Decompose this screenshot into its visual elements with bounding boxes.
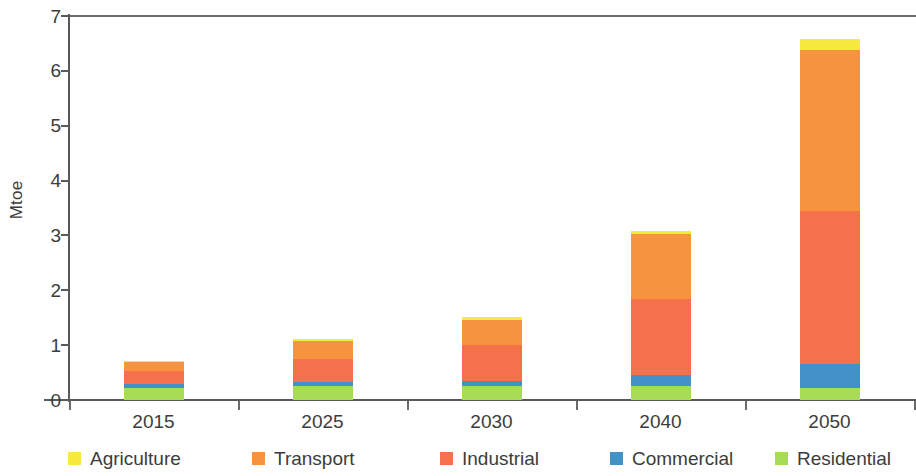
- x-axis-tick-mark: [745, 401, 747, 410]
- x-axis-tick-mark: [238, 401, 240, 410]
- legend-swatch-icon: [610, 452, 623, 465]
- legend-label: Residential: [797, 449, 891, 468]
- legend-item-commercial[interactable]: Commercial: [610, 444, 733, 472]
- bar-segment-industrial[interactable]: [293, 359, 353, 382]
- legend-label: Transport: [274, 449, 355, 468]
- x-axis-tick-mark: [69, 401, 71, 410]
- legend-item-residential[interactable]: Residential: [775, 444, 891, 472]
- bar-segment-agriculture[interactable]: [631, 231, 691, 235]
- bar-segment-transport[interactable]: [800, 50, 860, 211]
- bar-segment-commercial[interactable]: [293, 382, 353, 386]
- bar-segment-commercial[interactable]: [124, 384, 184, 388]
- y-axis-tick-mark: [61, 180, 68, 182]
- y-axis-tick: 1: [20, 335, 68, 355]
- bar-segment-agriculture[interactable]: [800, 39, 860, 50]
- bar-segment-commercial[interactable]: [631, 375, 691, 385]
- bar-segment-residential[interactable]: [462, 386, 522, 400]
- bar-stack[interactable]: [462, 317, 522, 400]
- y-axis-tick: 6: [20, 61, 68, 81]
- x-axis-tick-label: 2030: [422, 411, 562, 433]
- x-axis-tick-label: 2050: [760, 411, 900, 433]
- bar-segment-residential[interactable]: [631, 386, 691, 400]
- legend-swatch-icon: [68, 452, 81, 465]
- legend-swatch-icon: [775, 452, 788, 465]
- bar-stack[interactable]: [293, 339, 353, 400]
- bar-stack[interactable]: [631, 231, 691, 401]
- x-axis-tick-label: 2015: [84, 411, 224, 433]
- bar-stack[interactable]: [800, 39, 860, 400]
- bar-segment-transport[interactable]: [124, 362, 184, 371]
- bar-segment-agriculture[interactable]: [293, 339, 353, 341]
- bar-segment-transport[interactable]: [631, 234, 691, 299]
- y-axis-tick-mark: [61, 234, 68, 236]
- legend-label: Industrial: [462, 449, 539, 468]
- x-axis-tick-mark: [407, 401, 409, 410]
- x-axis-tick-label: 2025: [253, 411, 393, 433]
- y-axis-tick: 3: [20, 225, 68, 245]
- legend-swatch-icon: [252, 452, 265, 465]
- legend-label: Commercial: [632, 449, 733, 468]
- legend-item-industrial[interactable]: Industrial: [440, 444, 539, 472]
- y-axis-tick: 5: [20, 116, 68, 136]
- bar-segment-industrial[interactable]: [462, 345, 522, 381]
- bar-segment-commercial[interactable]: [800, 364, 860, 388]
- bar-segment-industrial[interactable]: [800, 211, 860, 364]
- stacked-bar-chart: Mtoe 01234567 20152025203020402050 Agric…: [0, 0, 916, 476]
- y-axis-tick: 0: [20, 390, 68, 410]
- y-axis-tick-mark: [61, 399, 68, 401]
- bar-segment-transport[interactable]: [462, 320, 522, 345]
- y-axis-tick-mark: [61, 125, 68, 127]
- legend-item-transport[interactable]: Transport: [252, 444, 355, 472]
- bar-stack[interactable]: [124, 361, 184, 400]
- legend-swatch-icon: [440, 452, 453, 465]
- legend-item-agriculture[interactable]: Agriculture: [68, 444, 181, 472]
- y-axis-tick-mark: [61, 289, 68, 291]
- bar-segment-residential[interactable]: [293, 386, 353, 400]
- bar-segment-residential[interactable]: [800, 388, 860, 400]
- bar-segment-agriculture[interactable]: [462, 317, 522, 320]
- y-axis-tick: 2: [20, 280, 68, 300]
- bar-segment-residential[interactable]: [124, 388, 184, 400]
- chart-legend: AgricultureTransportIndustrialCommercial…: [0, 444, 916, 476]
- y-axis-tick-mark: [61, 344, 68, 346]
- bar-segment-industrial[interactable]: [124, 371, 184, 384]
- legend-label: Agriculture: [90, 449, 181, 468]
- bar-segment-industrial[interactable]: [631, 299, 691, 375]
- x-axis-tick-mark: [576, 401, 578, 410]
- plot-area: [68, 16, 913, 400]
- y-axis-tick: 7: [20, 6, 68, 26]
- y-axis-tick-mark: [61, 15, 68, 17]
- bar-segment-agriculture[interactable]: [124, 361, 184, 362]
- y-axis-tick: 4: [20, 171, 68, 191]
- bar-segment-commercial[interactable]: [462, 381, 522, 386]
- bar-segment-transport[interactable]: [293, 341, 353, 359]
- x-axis-tick-label: 2040: [591, 411, 731, 433]
- y-axis-tick-mark: [61, 70, 68, 72]
